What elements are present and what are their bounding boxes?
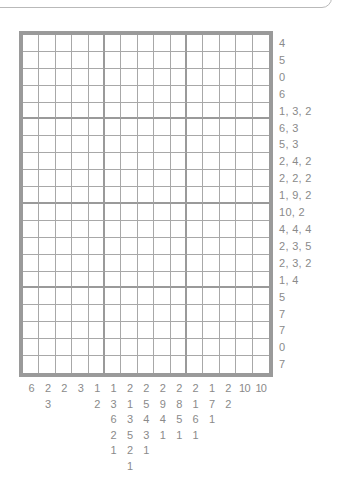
grid-cell[interactable] bbox=[23, 136, 39, 153]
grid-cell[interactable] bbox=[187, 221, 203, 238]
grid-cell[interactable] bbox=[220, 52, 236, 69]
grid-cell[interactable] bbox=[171, 119, 187, 136]
grid-cell[interactable] bbox=[171, 52, 187, 69]
grid-cell[interactable] bbox=[138, 305, 154, 322]
grid-cell[interactable] bbox=[39, 204, 55, 221]
grid-cell[interactable] bbox=[39, 170, 55, 187]
grid-cell[interactable] bbox=[154, 272, 170, 289]
grid-cell[interactable] bbox=[56, 356, 72, 373]
grid-cell[interactable] bbox=[220, 119, 236, 136]
grid-cell[interactable] bbox=[23, 322, 39, 339]
grid-cell[interactable] bbox=[236, 52, 252, 69]
grid-cell[interactable] bbox=[105, 119, 121, 136]
grid-cell[interactable] bbox=[171, 187, 187, 204]
grid-cell[interactable] bbox=[39, 119, 55, 136]
grid-cell[interactable] bbox=[236, 187, 252, 204]
grid-cell[interactable] bbox=[23, 103, 39, 120]
grid-cell[interactable] bbox=[203, 238, 219, 255]
grid-cell[interactable] bbox=[72, 170, 88, 187]
grid-cell[interactable] bbox=[138, 255, 154, 272]
grid-cell[interactable] bbox=[23, 272, 39, 289]
grid-cell[interactable] bbox=[56, 288, 72, 305]
grid-cell[interactable] bbox=[236, 153, 252, 170]
grid-cell[interactable] bbox=[89, 356, 105, 373]
grid-cell[interactable] bbox=[154, 187, 170, 204]
grid-cell[interactable] bbox=[72, 86, 88, 103]
grid-cell[interactable] bbox=[23, 187, 39, 204]
grid-cell[interactable] bbox=[72, 255, 88, 272]
grid-cell[interactable] bbox=[154, 322, 170, 339]
grid-cell[interactable] bbox=[56, 86, 72, 103]
grid-cell[interactable] bbox=[203, 52, 219, 69]
grid-cell[interactable] bbox=[89, 103, 105, 120]
grid-cell[interactable] bbox=[154, 52, 170, 69]
grid-cell[interactable] bbox=[72, 356, 88, 373]
grid-cell[interactable] bbox=[105, 187, 121, 204]
grid-cell[interactable] bbox=[56, 153, 72, 170]
grid-cell[interactable] bbox=[220, 238, 236, 255]
grid-cell[interactable] bbox=[203, 86, 219, 103]
grid-cell[interactable] bbox=[236, 238, 252, 255]
grid-cell[interactable] bbox=[39, 255, 55, 272]
grid-cell[interactable] bbox=[171, 322, 187, 339]
grid-cell[interactable] bbox=[253, 288, 269, 305]
grid-cell[interactable] bbox=[203, 255, 219, 272]
grid-cell[interactable] bbox=[72, 288, 88, 305]
grid-cell[interactable] bbox=[236, 136, 252, 153]
grid-cell[interactable] bbox=[203, 356, 219, 373]
grid-cell[interactable] bbox=[187, 356, 203, 373]
grid-cell[interactable] bbox=[220, 305, 236, 322]
grid-cell[interactable] bbox=[138, 35, 154, 52]
grid-cell[interactable] bbox=[121, 136, 137, 153]
grid-cell[interactable] bbox=[56, 255, 72, 272]
grid-cell[interactable] bbox=[171, 221, 187, 238]
grid-cell[interactable] bbox=[105, 52, 121, 69]
grid-cell[interactable] bbox=[138, 136, 154, 153]
grid-cell[interactable] bbox=[154, 136, 170, 153]
grid-cell[interactable] bbox=[39, 187, 55, 204]
grid-cell[interactable] bbox=[220, 272, 236, 289]
grid-cell[interactable] bbox=[72, 69, 88, 86]
grid-cell[interactable] bbox=[253, 322, 269, 339]
grid-cell[interactable] bbox=[39, 339, 55, 356]
grid-cell[interactable] bbox=[105, 136, 121, 153]
grid-cell[interactable] bbox=[89, 238, 105, 255]
grid-cell[interactable] bbox=[39, 221, 55, 238]
grid-cell[interactable] bbox=[23, 69, 39, 86]
grid-cell[interactable] bbox=[121, 322, 137, 339]
grid-cell[interactable] bbox=[138, 187, 154, 204]
grid-cell[interactable] bbox=[187, 86, 203, 103]
grid-cell[interactable] bbox=[105, 153, 121, 170]
grid-cell[interactable] bbox=[253, 35, 269, 52]
grid-cell[interactable] bbox=[56, 272, 72, 289]
grid-cell[interactable] bbox=[89, 119, 105, 136]
grid-cell[interactable] bbox=[138, 170, 154, 187]
grid-cell[interactable] bbox=[56, 52, 72, 69]
grid-cell[interactable] bbox=[39, 35, 55, 52]
grid-cell[interactable] bbox=[236, 69, 252, 86]
grid-cell[interactable] bbox=[105, 322, 121, 339]
grid-cell[interactable] bbox=[187, 305, 203, 322]
grid-cell[interactable] bbox=[187, 339, 203, 356]
grid-cell[interactable] bbox=[56, 136, 72, 153]
grid-cell[interactable] bbox=[171, 356, 187, 373]
grid-cell[interactable] bbox=[187, 69, 203, 86]
grid-cell[interactable] bbox=[121, 288, 137, 305]
grid-cell[interactable] bbox=[253, 103, 269, 120]
grid-cell[interactable] bbox=[89, 69, 105, 86]
grid-cell[interactable] bbox=[203, 322, 219, 339]
grid-cell[interactable] bbox=[154, 221, 170, 238]
grid-cell[interactable] bbox=[105, 204, 121, 221]
grid-cell[interactable] bbox=[138, 238, 154, 255]
grid-cell[interactable] bbox=[171, 204, 187, 221]
grid-cell[interactable] bbox=[56, 187, 72, 204]
grid-cell[interactable] bbox=[138, 322, 154, 339]
grid-cell[interactable] bbox=[154, 69, 170, 86]
grid-cell[interactable] bbox=[105, 356, 121, 373]
grid-cell[interactable] bbox=[253, 52, 269, 69]
grid-cell[interactable] bbox=[203, 204, 219, 221]
grid-cell[interactable] bbox=[187, 136, 203, 153]
grid-cell[interactable] bbox=[39, 305, 55, 322]
grid-cell[interactable] bbox=[56, 119, 72, 136]
grid-cell[interactable] bbox=[89, 322, 105, 339]
